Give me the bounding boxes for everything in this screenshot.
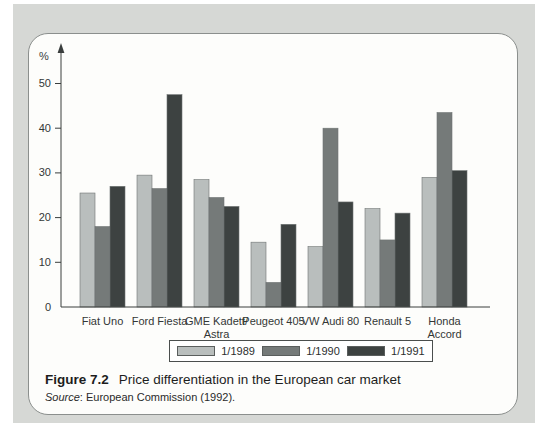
legend-label: 1/1989 — [221, 345, 255, 357]
bar — [437, 113, 452, 307]
legend-swatch-1-1991 — [347, 346, 385, 356]
figure-source-line: Source: European Commission (1992). — [45, 390, 495, 404]
bar — [323, 128, 338, 307]
bar — [281, 224, 296, 307]
bar — [266, 282, 281, 307]
legend-swatch-1-1989 — [177, 346, 215, 356]
x-category-label: Honda — [428, 315, 461, 327]
y-axis-unit-label: % — [39, 50, 49, 62]
legend-item-1-1990: 1/1990 — [262, 345, 340, 357]
bar — [224, 206, 239, 307]
y-tick-label: 30 — [39, 166, 51, 178]
figure-caption: Figure 7.2Price differentiation in the E… — [45, 372, 495, 404]
legend-item-1-1991: 1/1991 — [347, 345, 425, 357]
bar — [137, 175, 152, 307]
y-axis-arrow-icon — [58, 43, 65, 53]
x-category-label: Ford Fiesta — [132, 315, 189, 327]
y-tick-label: 20 — [39, 211, 51, 223]
x-category-label: Astra — [204, 328, 231, 340]
y-tick-label: 50 — [39, 77, 51, 89]
x-category-label: Fiat Uno — [82, 315, 124, 327]
bar — [338, 202, 353, 307]
bar — [95, 227, 110, 307]
bar — [152, 189, 167, 307]
bar — [110, 186, 125, 307]
chart-legend: 1/19891/19901/1991 — [169, 340, 433, 362]
legend-swatch-1-1990 — [262, 346, 300, 356]
bar — [209, 197, 224, 307]
figure-caption-line: Figure 7.2Price differentiation in the E… — [45, 372, 495, 388]
y-tick-label: 10 — [39, 256, 51, 268]
figure-number: Figure 7.2 — [45, 372, 109, 387]
legend-item-1-1989: 1/1989 — [177, 345, 255, 357]
bar — [251, 242, 266, 307]
source-label: Source — [45, 391, 80, 403]
bar — [422, 177, 437, 307]
legend-label: 1/1991 — [391, 345, 425, 357]
bar — [308, 247, 323, 307]
source-text: : European Commission (1992). — [80, 391, 235, 403]
figure-title: Price differentiation in the European ca… — [119, 372, 401, 387]
bar — [452, 171, 467, 307]
bar — [365, 209, 380, 307]
y-tick-label: 0 — [45, 301, 51, 313]
bar — [80, 193, 95, 307]
y-tick-label: 40 — [39, 122, 51, 134]
x-category-label: GME Kadett/ — [185, 315, 249, 327]
bar — [380, 240, 395, 307]
bar — [395, 213, 410, 307]
x-category-label: Accord — [427, 328, 461, 340]
x-category-label: VW Audi 80 — [302, 315, 359, 327]
bar — [167, 95, 182, 307]
x-category-label: Renault 5 — [364, 315, 411, 327]
legend-label: 1/1990 — [306, 345, 340, 357]
bar — [194, 180, 209, 307]
x-category-label: Peugeot 405 — [242, 315, 304, 327]
